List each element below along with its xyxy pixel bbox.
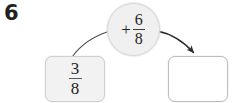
plus-sign-icon: + xyxy=(121,21,131,38)
fraction-six-eighths: 6 8 xyxy=(133,12,145,47)
problem-number: 6 xyxy=(4,1,18,25)
operator-numerator: 6 xyxy=(133,12,145,28)
input-denominator: 8 xyxy=(69,80,82,97)
operator-bubble[interactable]: + 6 8 xyxy=(107,3,160,56)
arrow-operator-to-answer xyxy=(157,31,194,53)
operator-denominator: 8 xyxy=(133,31,145,47)
input-fraction-box[interactable]: 3 8 xyxy=(45,56,105,102)
fraction-three-eighths: 3 8 xyxy=(69,60,82,97)
curve-input-to-operator xyxy=(73,32,109,57)
operator-expression: + 6 8 xyxy=(121,12,145,47)
worksheet-problem: 6 3 8 + 6 8 xyxy=(0,0,234,103)
answer-input-box[interactable] xyxy=(168,56,228,102)
input-numerator: 3 xyxy=(69,60,82,77)
